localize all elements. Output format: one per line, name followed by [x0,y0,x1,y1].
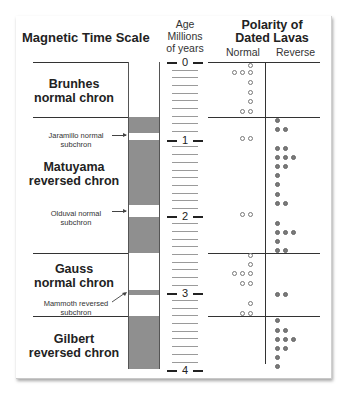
age-minor-tick [172,93,198,94]
subchron-label-jaramillo: Jaramillo normal subchron [36,131,116,149]
normal-column-header: Normal [226,46,260,58]
segment-brunhes [129,62,159,117]
age-minor-tick [172,338,198,339]
reverse-lava-dot [275,230,280,235]
age-minor-tick [172,193,198,194]
reverse-lava-dot [283,337,288,342]
subchron-line2: subchron [36,308,116,317]
reverse-lava-dot [275,221,280,226]
normal-lava-dot [248,281,253,286]
segment-gauss-lower [129,295,159,316]
normal-lava-dot [248,253,253,258]
reverse-lava-dot [275,155,280,160]
segment-olduvai [129,205,159,217]
age-tick-4: 4 [167,364,203,376]
normal-lava-dot [240,311,245,316]
subchron-line1: Jaramillo normal [36,131,116,140]
polarity-title: Polarity of Dated Lavas [222,19,322,45]
chron-name: Gauss [24,262,124,276]
chron-label-gilbert: Gilbert reversed chron [24,332,124,360]
age-minor-tick [172,308,198,309]
reverse-lava-dot [275,328,280,333]
chron-label-brunhes: Brunhes normal chron [24,77,124,105]
polarity-divider-2 [208,253,320,254]
age-minor-tick [172,177,198,178]
age-tick-2: 2 [167,210,203,222]
olduvai-arrow-icon [112,211,126,212]
age-minor-tick [172,262,198,263]
reverse-lava-dot [283,164,288,169]
age-minor-tick [172,285,198,286]
age-minor-tick [172,170,198,171]
chron-type: normal chron [24,276,124,290]
age-minor-tick [172,146,198,147]
age-minor-tick [172,231,198,232]
reverse-lava-dot [275,337,280,342]
segment-matuyama-middle [129,140,159,205]
normal-lava-dot [248,212,253,217]
millions-label: Millions [162,30,208,42]
normal-lava-dot [248,109,253,114]
subchron-line1: Mammoth reversed [36,299,116,308]
age-minor-tick [172,100,198,101]
age-minor-tick [172,354,198,355]
reverse-lava-dot [283,328,288,333]
reverse-lava-dot [275,346,280,351]
age-minor-tick [172,185,198,186]
segment-gauss-upper [129,253,159,290]
age-minor-tick [172,323,198,324]
age-minor-tick [172,108,198,109]
reverse-lava-dot [291,230,296,235]
age-minor-tick [172,331,198,332]
reverse-lava-dot [283,230,288,235]
age-label: Age [162,18,208,30]
segment-matuyama-lower [129,217,159,253]
age-minor-tick [172,269,198,270]
of-years-label: of years [162,42,208,54]
polarity-divider-1 [208,117,320,118]
jaramillo-arrow-icon [112,135,126,136]
age-minor-tick [172,123,198,124]
reverse-lava-dot [275,118,280,123]
polarity-bar [128,62,160,369]
chron-label-gauss: Gauss normal chron [24,262,124,290]
chron-name: Gilbert [24,332,124,346]
age-minor-tick [172,254,198,255]
reverse-lava-dot [275,192,280,197]
reverse-column-header: Reverse [276,46,315,58]
subchron-label-mammoth: Mammoth reversed subchron [36,299,116,317]
age-minor-tick [172,131,198,132]
reverse-lava-dot [291,337,296,342]
age-minor-tick [172,362,198,363]
chron-name: Brunhes [24,77,124,91]
mammoth-arrow-icon [110,290,130,304]
age-tick-0: 0 [167,56,203,68]
segment-gilbert [129,316,159,369]
normal-lava-dot [240,281,245,286]
reverse-lava-dot [275,201,280,206]
chron-type: normal chron [24,91,124,105]
age-minor-tick [172,223,198,224]
chron-name: Matuyama [24,160,124,174]
reverse-lava-dot [283,201,288,206]
segment-matuyama-upper [129,117,159,133]
age-minor-tick [172,300,198,301]
age-minor-tick [172,70,198,71]
age-minor-tick [172,200,198,201]
age-minor-tick [172,85,198,86]
age-tick-3: 3 [167,287,203,299]
reverse-lava-dot [275,164,280,169]
normal-lava-dot [248,311,253,316]
reverse-lava-dot [283,346,288,351]
age-minor-tick [172,239,198,240]
subchron-line1: Olduvai normal [36,209,116,218]
subchron-line2: subchron [36,218,116,227]
segment-jaramillo [129,133,159,140]
normal-lava-dot [240,109,245,114]
polarity-divider-top [208,62,320,63]
age-minor-tick [172,162,198,163]
chron-type: reversed chron [24,174,124,188]
reverse-lava-dot [283,146,288,151]
age-minor-tick [172,277,198,278]
subchron-line2: subchron [36,140,116,149]
